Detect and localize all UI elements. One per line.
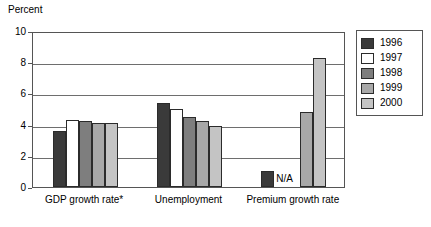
y-axis-title: Percent [8, 4, 42, 16]
bar[interactable] [92, 123, 105, 187]
na-annotation: N/A [276, 174, 293, 184]
bar[interactable] [79, 121, 92, 187]
y-tick-mark [28, 63, 32, 64]
bar[interactable] [157, 103, 170, 187]
bar[interactable] [53, 131, 66, 187]
x-tick-label: Premium growth rate [241, 194, 345, 206]
y-tick-label: 4 [2, 121, 26, 131]
legend-item[interactable]: 1997 [361, 51, 418, 65]
bar[interactable] [261, 171, 274, 187]
bar[interactable] [209, 126, 222, 187]
legend-swatch-icon [361, 83, 374, 94]
y-tick-label: 10 [2, 27, 26, 37]
legend-swatch-icon [361, 68, 374, 79]
bar[interactable] [313, 58, 326, 187]
plot-area: N/A [32, 32, 345, 188]
y-tick-label: 6 [2, 89, 26, 99]
legend-item[interactable]: 1998 [361, 66, 418, 80]
y-tick-mark [28, 188, 32, 189]
y-tick-label: 0 [2, 183, 26, 193]
legend-label: 1998 [380, 68, 402, 78]
legend-swatch-icon [361, 98, 374, 109]
bar-chart: Percent N/A 0246810 GDP growth rate*Unem… [0, 0, 431, 227]
bar[interactable] [66, 120, 79, 187]
x-tick-label: Unemployment [136, 194, 240, 206]
legend-label: 1999 [380, 83, 402, 93]
bar[interactable] [196, 121, 209, 187]
legend-swatch-icon [361, 53, 374, 64]
legend-label: 1996 [380, 38, 402, 48]
x-tick-label: GDP growth rate* [32, 194, 136, 206]
bar[interactable] [183, 117, 196, 187]
bar-group [242, 33, 346, 187]
legend: 19961997199819992000 [356, 30, 423, 116]
bar[interactable] [170, 109, 183, 187]
legend-item[interactable]: 1996 [361, 36, 418, 50]
y-tick-label: 8 [2, 58, 26, 68]
y-tick-mark [28, 32, 32, 33]
y-tick-mark [28, 94, 32, 95]
legend-label: 1997 [380, 53, 402, 63]
legend-item[interactable]: 1999 [361, 81, 418, 95]
legend-label: 2000 [380, 98, 402, 108]
legend-item[interactable]: 2000 [361, 96, 418, 110]
bar-group [137, 33, 241, 187]
bar[interactable] [105, 123, 118, 187]
bar-group [33, 33, 137, 187]
bar[interactable] [300, 112, 313, 187]
y-tick-label: 2 [2, 152, 26, 162]
y-tick-mark [28, 157, 32, 158]
legend-swatch-icon [361, 38, 374, 49]
y-tick-mark [28, 126, 32, 127]
